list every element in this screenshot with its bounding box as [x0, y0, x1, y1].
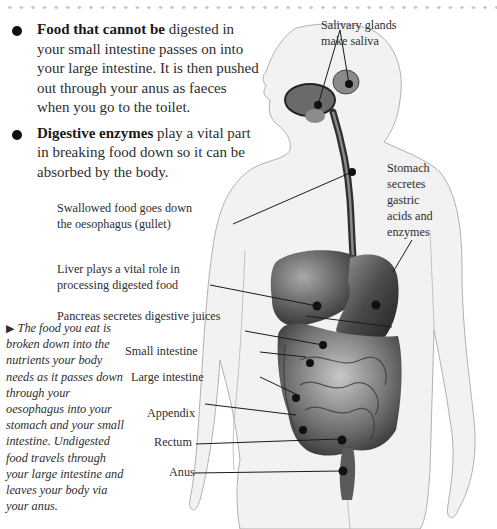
label-anus: Anus	[169, 464, 195, 480]
label-line: secretes	[387, 176, 433, 192]
label-oesophagus: Swallowed food goes down the oesophagus …	[57, 200, 192, 232]
label-line: make saliva	[321, 33, 396, 49]
bullet-item: Food that cannot be digested in your sma…	[10, 20, 260, 118]
label-large-intestine: Large intestine	[131, 369, 204, 385]
bullet-list: Food that cannot be digested in your sma…	[10, 20, 260, 188]
label-liver: Liver plays a vital role in processing d…	[57, 261, 180, 293]
label-line: the oesophagus (gullet)	[57, 216, 192, 232]
label-rectum: Rectum	[154, 434, 192, 450]
label-line: processing digested food	[57, 277, 180, 293]
label-line: gastric	[387, 192, 433, 208]
label-appendix: Appendix	[147, 405, 195, 421]
label-line: Salivary glands	[321, 17, 396, 33]
figure-caption: ▶ The food you eat is broken down into t…	[6, 320, 126, 514]
label-small-intestine: Small intestine	[125, 343, 198, 359]
label-line: Liver plays a vital role in	[57, 261, 180, 277]
label-line: enzymes	[387, 224, 433, 240]
label-salivary-glands: Salivary glands make saliva	[321, 17, 396, 49]
label-line: Swallowed food goes down	[57, 200, 192, 216]
bullet-icon	[12, 130, 22, 140]
label-line: Stomach	[387, 160, 433, 176]
bullet-bold-text: Digestive enzymes	[37, 125, 153, 141]
bullet-icon	[12, 26, 22, 36]
caption-text: The food you eat is broken down into the…	[6, 321, 124, 513]
bullet-bold-text: Food that cannot be	[37, 21, 165, 37]
label-stomach: Stomach secretes gastric acids and enzym…	[387, 160, 433, 240]
label-line: acids and	[387, 208, 433, 224]
intestines	[278, 324, 402, 456]
bullet-item: Digestive enzymes play a vital part in b…	[10, 124, 260, 183]
